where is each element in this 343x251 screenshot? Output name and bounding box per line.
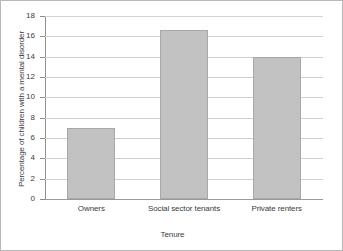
bar (253, 57, 301, 199)
y-axis-tick-label: 2 (5, 175, 35, 183)
y-axis-tick-label: 10 (5, 93, 35, 101)
bar (67, 128, 115, 199)
bar (160, 30, 208, 199)
y-axis-tick-label: 0 (5, 195, 35, 203)
y-axis-tick-label: 8 (5, 114, 35, 122)
gridline (45, 16, 323, 17)
y-axis-tick-label: 12 (5, 73, 35, 81)
x-axis-title: Tenure (1, 230, 343, 239)
x-axis-tick-label: Social sector tenants (138, 204, 231, 214)
bar-chart-figure: Percentage of children with a mental dis… (0, 0, 343, 251)
y-axis-tick-label: 4 (5, 154, 35, 162)
x-axis-tick-label: Private renters (230, 204, 323, 214)
y-axis-tick-label: 14 (5, 53, 35, 61)
gridline (45, 199, 323, 200)
y-axis-tick-label: 18 (5, 12, 35, 20)
plot-area (45, 16, 323, 199)
x-axis-tick-label: Owners (45, 204, 138, 214)
y-axis-tick-label: 6 (5, 134, 35, 142)
y-axis-tick-label: 16 (5, 32, 35, 40)
